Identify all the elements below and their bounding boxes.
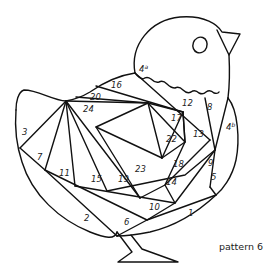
label-14: 14 bbox=[166, 177, 177, 187]
beak bbox=[217, 30, 229, 55]
label-7: 7 bbox=[37, 152, 43, 162]
label-4b: 4b bbox=[226, 121, 235, 132]
label-9: 9 bbox=[208, 158, 213, 168]
label-11: 11 bbox=[59, 168, 70, 178]
chick-pattern-diagram: 1 2 3 4a 4b 5 6 7 8 9 10 11 12 13 14 15 … bbox=[0, 0, 279, 275]
pattern-caption: pattern 6 bbox=[219, 241, 263, 252]
label-16: 16 bbox=[111, 80, 122, 90]
label-24: 24 bbox=[83, 104, 94, 114]
label-18: 18 bbox=[173, 159, 184, 169]
label-19: 19 bbox=[118, 174, 129, 184]
label-1: 1 bbox=[188, 208, 193, 218]
label-13: 13 bbox=[193, 129, 204, 139]
label-3: 3 bbox=[22, 127, 27, 137]
label-23: 23 bbox=[135, 164, 146, 174]
label-8: 8 bbox=[207, 102, 213, 112]
foot bbox=[117, 232, 178, 262]
label-5: 5 bbox=[211, 172, 216, 182]
label-15: 15 bbox=[91, 174, 102, 184]
label-17: 17 bbox=[171, 113, 182, 123]
label-6: 6 bbox=[124, 217, 130, 227]
segment-labels: 1 2 3 4a 4b 5 6 7 8 9 10 11 12 13 14 15 … bbox=[22, 63, 235, 227]
label-22: 22 bbox=[166, 134, 177, 144]
label-4a: 4a bbox=[139, 63, 148, 74]
label-2: 2 bbox=[84, 213, 89, 223]
label-20: 20 bbox=[90, 92, 101, 102]
label-10: 10 bbox=[149, 202, 160, 212]
back-outline bbox=[16, 73, 135, 110]
label-12: 12 bbox=[182, 98, 193, 108]
eye-icon bbox=[191, 35, 210, 55]
